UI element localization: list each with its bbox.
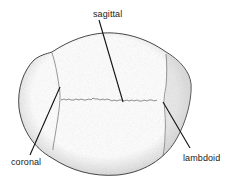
occipital-shading <box>165 52 191 153</box>
lambdoid-label: lambdoid <box>183 153 220 163</box>
coronal-label: coronal <box>11 157 41 167</box>
skull-diagram: sagittal coronal lambdoid <box>0 0 233 182</box>
sagittal-label: sagittal <box>93 9 122 19</box>
